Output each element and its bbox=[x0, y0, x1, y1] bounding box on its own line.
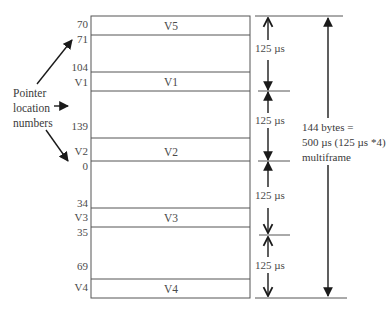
slot-label-v3: V3 bbox=[141, 212, 201, 224]
slot-label-v2: V2 bbox=[141, 146, 201, 158]
side-label-line-3: numbers bbox=[13, 116, 53, 131]
pointer-number: V1 bbox=[48, 76, 88, 88]
multiframe-line-1: 144 bytes = bbox=[302, 120, 386, 135]
pointer-location-label: Pointer location numbers bbox=[13, 86, 53, 131]
multiframe-line-2: 500 µs (125 µs *4) bbox=[302, 135, 386, 150]
pointer-number: V4 bbox=[48, 281, 88, 293]
pointer-number: V3 bbox=[48, 211, 88, 223]
pointer-number: 69 bbox=[48, 260, 88, 272]
pointer-number: 0 bbox=[48, 160, 88, 172]
pointer-number: V2 bbox=[48, 145, 88, 157]
slot-label-v1: V1 bbox=[141, 76, 201, 88]
interval-label-4: 125 µs bbox=[255, 258, 285, 272]
pointer-number: 70 bbox=[48, 18, 88, 30]
interval-label-2: 125 µs bbox=[255, 113, 285, 127]
pointer-number: 34 bbox=[48, 197, 88, 209]
slot-label-v5: V5 bbox=[141, 20, 201, 32]
interval-label-3: 125 µs bbox=[255, 188, 285, 202]
multiframe-line-3: multiframe bbox=[302, 150, 386, 165]
pointer-number: 139 bbox=[48, 120, 88, 132]
slot-label-v4: V4 bbox=[141, 283, 201, 295]
multiframe-label: 144 bytes = 500 µs (125 µs *4) multifram… bbox=[302, 120, 386, 165]
interval-label-1: 125 µs bbox=[255, 41, 285, 55]
pointer-number: 104 bbox=[48, 61, 88, 73]
pointer-number: 71 bbox=[48, 33, 88, 45]
pointer-number: 35 bbox=[48, 226, 88, 238]
side-label-line-1: Pointer bbox=[13, 86, 53, 101]
side-label-line-2: location bbox=[13, 101, 53, 116]
